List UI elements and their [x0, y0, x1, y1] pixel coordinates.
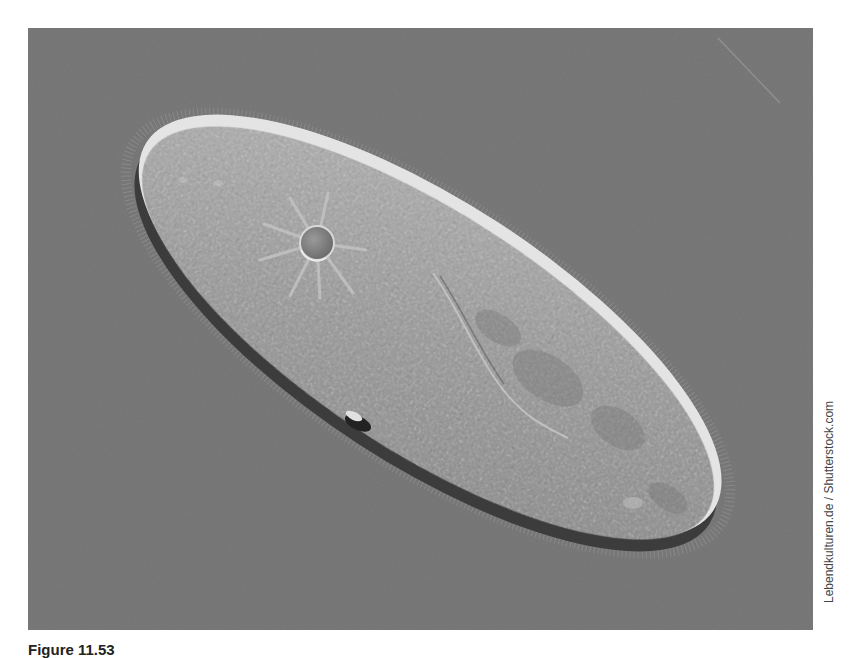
paramecium-illustration — [28, 28, 813, 630]
figure-label: Figure 11.53 — [28, 641, 115, 658]
figure-caption: Figure 11.53 — [28, 641, 123, 658]
photo-credit: Lebendkulturen.de / Shutterstock.com — [822, 401, 836, 603]
micrograph-photo — [28, 28, 813, 630]
